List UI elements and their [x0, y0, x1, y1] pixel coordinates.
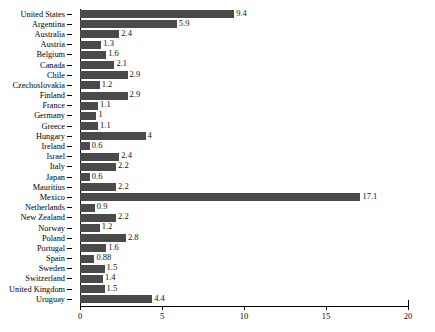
category-label-row: Israel [0, 152, 72, 162]
category-label-row: Argentina [0, 19, 72, 29]
category-label-row: Mauritius [0, 182, 72, 192]
y-axis-tick-mark [67, 248, 72, 249]
y-axis-tick-mark [67, 228, 72, 229]
category-label-row: Italy [0, 162, 72, 172]
bar [80, 285, 105, 293]
category-label-row: Uruguay [0, 294, 72, 304]
bar-value-label: 1.5 [107, 283, 118, 293]
bar-row: 2.9 [80, 91, 408, 101]
x-axis-tick-mark [408, 306, 409, 310]
category-label: Chile [47, 71, 65, 80]
category-label-row: Netherlands [0, 203, 72, 213]
bar [80, 234, 126, 242]
category-label-row: United Kingdom [0, 284, 72, 294]
bar-value-label: 5.9 [179, 18, 190, 28]
y-axis-tick-mark [67, 187, 72, 188]
bar [80, 102, 98, 110]
bar-row: 1.3 [80, 40, 408, 50]
y-axis-tick-mark [67, 177, 72, 178]
bar-value-label: 2.4 [121, 28, 132, 38]
category-label-row: Greece [0, 121, 72, 131]
bar-row: 1.1 [80, 101, 408, 111]
bar-value-label: 1.4 [105, 272, 116, 282]
bar [80, 193, 360, 201]
plot-area: 9.45.92.41.31.62.12.91.22.91.111.140.62.… [80, 9, 408, 306]
category-label-row: Spain [0, 254, 72, 264]
category-label: New Zealand [21, 213, 65, 222]
category-label: Ireland [42, 142, 66, 151]
category-label-row: Mexico [0, 192, 72, 202]
bar [80, 41, 101, 49]
bar-value-label: 0.6 [92, 140, 103, 150]
category-label: Poland [42, 234, 65, 243]
bar-row: 17.1 [80, 192, 408, 202]
x-axis-tick-label: 20 [404, 311, 413, 321]
bar [80, 173, 90, 181]
bar [80, 153, 119, 161]
bar-row: 0.9 [80, 203, 408, 213]
y-axis-tick-mark [67, 105, 72, 106]
category-label: Czechoslovakia [12, 81, 65, 90]
bar [80, 122, 98, 130]
bar [80, 51, 106, 59]
bar-row: 2.2 [80, 213, 408, 223]
category-label: Portugal [37, 244, 65, 253]
bar-value-label: 17.1 [362, 191, 377, 201]
y-axis-tick-mark [67, 238, 72, 239]
category-label-row: Hungary [0, 131, 72, 141]
category-label: Norway [38, 224, 65, 233]
y-axis-tick-mark [67, 299, 72, 300]
category-label-row: New Zealand [0, 213, 72, 223]
bar-value-label: 1.2 [102, 79, 113, 89]
category-label-row: Norway [0, 223, 72, 233]
y-axis-tick-mark [67, 126, 72, 127]
bar-value-label: 2.1 [116, 58, 127, 68]
bar-row: 1.5 [80, 284, 408, 294]
bar [80, 295, 152, 303]
bar-value-label: 1.1 [100, 120, 111, 130]
bar-value-label: 2.4 [121, 150, 132, 160]
x-axis-tick-mark [80, 306, 81, 310]
bar-value-label: 2.2 [118, 211, 129, 221]
bar-row: 0.88 [80, 254, 408, 264]
bar [80, 61, 114, 69]
bar-row: 2.4 [80, 29, 408, 39]
y-axis-tick-mark [67, 75, 72, 76]
category-label: Belgium [36, 50, 65, 59]
category-label: Finland [40, 91, 65, 100]
bar-value-label: 1.2 [102, 221, 113, 231]
bar [80, 255, 94, 263]
bar-row: 1.5 [80, 264, 408, 274]
y-axis-category-labels: United StatesArgentinaAustraliaAustriaBe… [0, 9, 72, 306]
category-label-row: Canada [0, 60, 72, 70]
bar [80, 265, 105, 273]
y-axis-tick-mark [67, 54, 72, 55]
category-label-row: Switzerland [0, 274, 72, 284]
category-label-row: Sweden [0, 264, 72, 274]
category-label: Italy [50, 162, 65, 171]
y-axis-tick-mark [67, 197, 72, 198]
bar-row: 1.1 [80, 121, 408, 131]
category-label: Hungary [36, 132, 65, 141]
x-axis-tick-label: 15 [322, 311, 331, 321]
category-label: Mexico [40, 193, 65, 202]
y-axis-tick-mark [67, 65, 72, 66]
bar-value-label: 4 [148, 130, 152, 140]
bar [80, 142, 90, 150]
bar-row: 9.4 [80, 9, 408, 19]
y-axis-tick-mark [67, 95, 72, 96]
category-label-row: Ireland [0, 141, 72, 151]
bar [80, 183, 116, 191]
category-label: Uruguay [36, 295, 65, 304]
category-label: Greece [42, 122, 66, 131]
bar-row: 1 [80, 111, 408, 121]
y-axis-tick-mark [67, 268, 72, 269]
y-axis-tick-mark [67, 24, 72, 25]
category-label: Austria [41, 40, 65, 49]
bar-chart: United StatesArgentinaAustraliaAustriaBe… [0, 0, 435, 332]
y-axis-tick-mark [67, 85, 72, 86]
x-axis-tick-label: 10 [240, 311, 249, 321]
y-axis-tick-mark [67, 289, 72, 290]
y-axis-tick-mark [67, 217, 72, 218]
bar-row: 2.2 [80, 182, 408, 192]
